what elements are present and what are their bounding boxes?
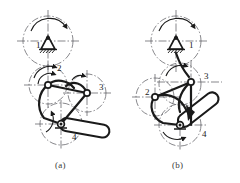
a-label-1: 1 [36,40,41,50]
b-joint-2 [152,94,158,100]
b-label-1: 1 [189,40,194,50]
b-joint-4-inner [179,124,182,127]
a-joint-2 [45,82,51,88]
figure-background [0,0,240,183]
b-label-3: 3 [204,71,209,81]
caption-a: (a) [55,160,66,170]
b-label-4: 4 [202,129,207,139]
a-joint-4-inner [60,123,63,126]
caption-b: (b) [172,160,183,170]
a-label-4: 4 [72,132,77,142]
a-ground-pin [46,36,50,40]
figure-container: 1 2 3 4 [0,0,240,183]
b-label-2: 2 [145,87,150,97]
a-label-2: 2 [57,63,62,73]
a-joint-3 [84,90,90,96]
a-label-3: 3 [99,82,104,92]
b-joint-3 [188,79,194,85]
b-ground-pin [174,36,178,40]
mechanism-figure-svg: 1 2 3 4 [0,0,240,183]
